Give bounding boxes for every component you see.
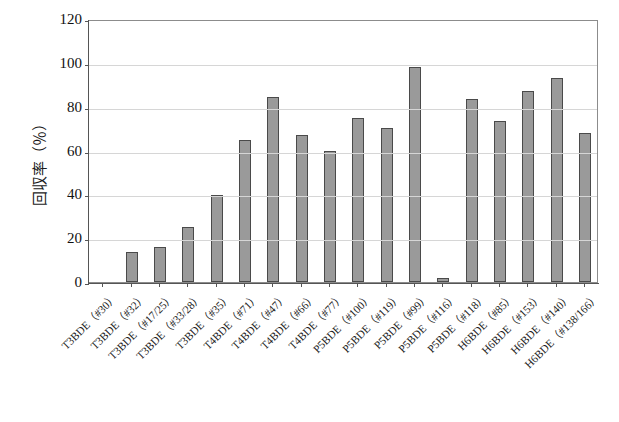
x-tick-mark: [244, 283, 245, 287]
bar-chart: 回収率（％） 020406080100120 T3BDE（#30）T3BDE（#…: [0, 0, 619, 422]
x-tick-mark: [216, 283, 217, 287]
x-tick-mark: [301, 283, 302, 287]
y-axis-line: [88, 20, 89, 284]
x-tick-mark: [499, 283, 500, 287]
x-tick-mark: [584, 283, 585, 287]
x-axis-line: [88, 283, 599, 284]
x-tick-mark: [131, 283, 132, 287]
x-tick-mark: [386, 283, 387, 287]
x-tick-mark: [187, 283, 188, 287]
x-tick-mark: [329, 283, 330, 287]
x-tick-mark: [556, 283, 557, 287]
x-tick-mark: [442, 283, 443, 287]
x-tick-mark: [159, 283, 160, 287]
x-axis-tick-labels: T3BDE（#30）T3BDE（#32）T3BDE（#17/25）T3BDE（#…: [0, 0, 619, 422]
x-tick-mark: [102, 283, 103, 287]
x-tick-mark: [272, 283, 273, 287]
x-tick-mark: [527, 283, 528, 287]
x-tick-mark: [357, 283, 358, 287]
x-tick-mark: [414, 283, 415, 287]
x-tick-mark: [471, 283, 472, 287]
